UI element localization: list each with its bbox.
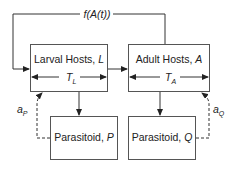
larval-hosts-box: Larval Hosts, L TL bbox=[31, 45, 108, 92]
parasitoid-q-label: Parasitoid, Q bbox=[132, 131, 193, 143]
attack-rate-q: aQ bbox=[196, 93, 225, 138]
adult-hosts-box: Adult Hosts, A TA bbox=[129, 45, 210, 92]
larval-hosts-label: Larval Hosts, L bbox=[34, 53, 104, 65]
feedback-label: f(A(t)) bbox=[84, 8, 111, 20]
parasitoid-p-box: Parasitoid, P bbox=[51, 117, 118, 160]
attack-rate-q-label: aQ bbox=[213, 103, 225, 118]
parasitoid-q-box: Parasitoid, Q bbox=[129, 117, 196, 160]
host-parasitoid-diagram: f(A(t)) Larval Hosts, L TL Adult Hosts, … bbox=[0, 0, 236, 169]
parasitoid-p-label: Parasitoid, P bbox=[54, 131, 114, 143]
adult-hosts-label: Adult Hosts, A bbox=[136, 53, 203, 65]
attack-rate-p-label: aP bbox=[17, 103, 28, 117]
attack-rate-p: aP bbox=[17, 93, 50, 138]
